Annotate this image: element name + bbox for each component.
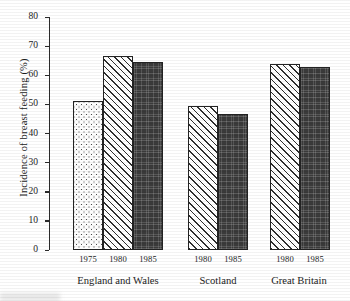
y-tick-label: 70: [8, 41, 38, 51]
bar-great-britain-1985: [300, 67, 330, 250]
y-tick-label: 0: [8, 245, 38, 255]
bar-england-and-wales-1985: [133, 62, 163, 250]
y-tick-label: 50: [8, 99, 38, 109]
bar-great-britain-1980: [270, 64, 300, 250]
y-tick-mark: [45, 191, 49, 192]
y-tick-label: 20: [8, 187, 38, 197]
bar-england-and-wales-1975: [73, 101, 103, 250]
bar-chart: Incidence of breast feeding (%) 80706050…: [0, 0, 350, 301]
scan-artifact: [0, 293, 60, 301]
y-tick-mark: [45, 220, 49, 221]
x-year-label: 1985: [297, 254, 333, 264]
bar-scotland-1985: [218, 114, 248, 250]
y-tick-mark: [45, 17, 49, 18]
y-tick-label: 80: [8, 12, 38, 22]
y-axis-title: Incidence of breast feeding (%): [18, 28, 29, 228]
x-year-label: 1985: [130, 254, 166, 264]
y-tick-mark: [45, 75, 49, 76]
y-tick-label: 30: [8, 158, 38, 168]
y-tick-label: 40: [8, 129, 38, 139]
x-year-label: 1985: [215, 254, 251, 264]
plot-area: [50, 17, 350, 250]
y-tick-mark: [45, 250, 49, 251]
y-tick-mark: [45, 162, 49, 163]
y-tick-mark: [45, 104, 49, 105]
x-group-label: Great Britain: [229, 275, 350, 286]
y-tick-mark: [45, 133, 49, 134]
y-tick-label: 60: [8, 70, 38, 80]
bar-england-and-wales-1980: [103, 56, 133, 250]
bar-scotland-1980: [188, 106, 218, 250]
y-tick-label: 10: [8, 216, 38, 226]
y-tick-mark: [45, 46, 49, 47]
